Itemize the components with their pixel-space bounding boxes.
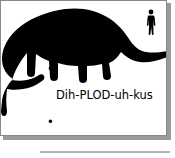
panel-shadow-bottom [3, 136, 171, 140]
list-item: • lizard-hipped [47, 116, 165, 136]
human-scale-silhouette [147, 10, 156, 35]
footer-divider [40, 151, 170, 153]
panel-shadow-right [167, 3, 171, 139]
list-item: • Dih-PLOD-uh-kus [47, 63, 165, 116]
bullet-icon: • [47, 63, 54, 76]
bullet-icon: • [47, 116, 54, 129]
dinosaur-fact-card: • Dih-PLOD-uh-kus • lizard-hipped • late… [0, 0, 175, 158]
fact-card-panel: • Dih-PLOD-uh-kus • lizard-hipped • late… [0, 0, 167, 136]
fact-text: Dih-PLOD-uh-kus [56, 89, 165, 102]
fact-list: • Dih-PLOD-uh-kus • lizard-hipped • late… [47, 63, 165, 136]
